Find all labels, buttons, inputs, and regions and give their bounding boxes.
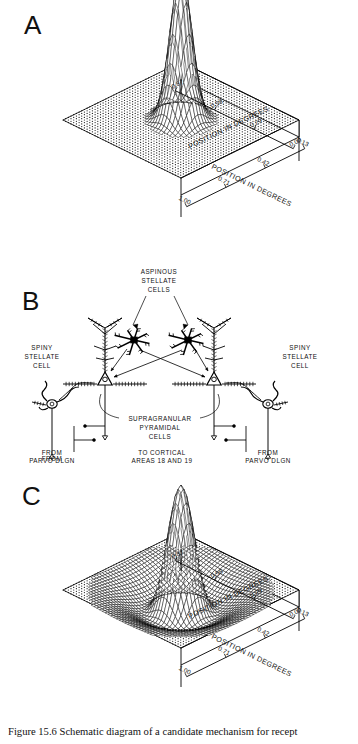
svg-text:1.00: 1.00 — [178, 194, 193, 206]
svg-text:PYRAMIDAL: PYRAMIDAL — [140, 424, 181, 431]
svg-text:ASPINOUS: ASPINOUS — [141, 268, 178, 275]
svg-text:PARVO DLGN: PARVO DLGN — [245, 457, 291, 464]
svg-text:TO CORTICAL: TO CORTICAL — [138, 449, 186, 456]
panel-b-schematic-diagram: ASPINOUSSTELLATECELLSSPINYSTELLATECELLSP… — [0, 258, 358, 468]
svg-text:STELLATE: STELLATE — [141, 277, 176, 284]
svg-text:AREAS 18 AND 19: AREAS 18 AND 19 — [131, 457, 192, 464]
svg-text:STELLATE: STELLATE — [24, 353, 59, 360]
svg-text:CELLS: CELLS — [149, 433, 171, 440]
svg-text:PARVO DLGN: PARVO DLGN — [29, 457, 75, 464]
svg-text:FROM: FROM — [258, 449, 279, 456]
panel-a-letter: A — [24, 10, 41, 41]
figure-page: 1.000.710.420.13POSITION IN DEGREES0.000… — [0, 0, 358, 744]
panel-c-surface-plot: 1.000.710.420.13POSITION IN DEGREES0.000… — [0, 470, 358, 720]
svg-text:CELLS: CELLS — [148, 286, 170, 293]
svg-text:SUPRAGRANULAR: SUPRAGRANULAR — [128, 415, 191, 422]
svg-text:POSITION IN DEGREES: POSITION IN DEGREES — [210, 162, 293, 209]
svg-text:CELL: CELL — [33, 362, 51, 369]
svg-text:0.42: 0.42 — [256, 625, 271, 637]
panel-b-letter: B — [22, 286, 39, 317]
svg-text:SPINY: SPINY — [31, 344, 53, 351]
svg-text:1.00: 1.00 — [178, 664, 193, 676]
svg-text:FROM: FROM — [42, 449, 63, 456]
svg-text:CELL: CELL — [291, 362, 309, 369]
svg-text:POSITION IN DEGREES: POSITION IN DEGREES — [210, 632, 293, 679]
svg-text:0.42: 0.42 — [256, 155, 271, 167]
svg-text:STELLATE: STELLATE — [282, 353, 317, 360]
panel-c-letter: C — [22, 481, 41, 512]
svg-text:SPINY: SPINY — [289, 344, 311, 351]
figure-caption: Figure 15.6 Schematic diagram of a candi… — [8, 726, 352, 737]
panel-a-surface-plot: 1.000.710.420.13POSITION IN DEGREES0.000… — [0, 0, 358, 250]
